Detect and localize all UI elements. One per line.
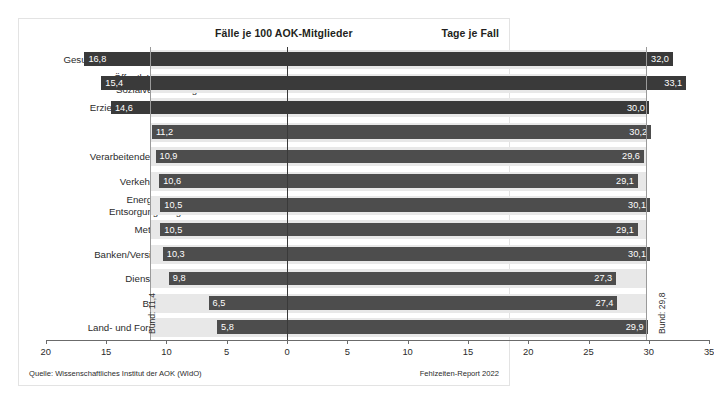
chart-row: Verkehr/Transport10,629,1 xyxy=(19,169,509,193)
bar-value-label: 29,1 xyxy=(616,225,634,235)
axis-tick-label-right: 25 xyxy=(583,346,593,357)
axis-tick-label-right: 30 xyxy=(644,346,654,357)
bar-faelle: 5,8 xyxy=(217,320,287,334)
chart-row: Verarbeitendes Gewerbe10,929,6 xyxy=(19,145,509,169)
chart-row: Land- und Forstwirtschaft5,829,9 xyxy=(19,315,509,339)
axis-line xyxy=(46,340,709,341)
bund-left-label: Bund: 11,4 xyxy=(147,293,157,334)
chart-row: Metallindustrie10,529,1 xyxy=(19,218,509,242)
bar-value-label: 11,2 xyxy=(156,127,173,137)
source-note: Quelle: Wissenschaftliches Institut der … xyxy=(29,369,202,378)
bar-faelle: 11,2 xyxy=(152,125,287,139)
bar-value-label: 30,1 xyxy=(628,249,646,259)
bar-value-label: 10,9 xyxy=(160,151,178,161)
axis-tick xyxy=(589,340,590,344)
bund-right-label: Bund: 29,8 xyxy=(657,292,667,334)
bar-tage-je-fall: 29,6 xyxy=(287,150,644,164)
bar-tage-je-fall: 27,3 xyxy=(287,272,616,286)
bar-value-label: 30,2 xyxy=(629,127,647,137)
bar-value-label: 27,4 xyxy=(596,298,614,308)
axis-tick xyxy=(528,340,529,344)
bar-value-label: 27,3 xyxy=(594,273,612,283)
axis-tick xyxy=(347,340,348,344)
bar-faelle: 16,8 xyxy=(84,52,287,66)
bar-tage-je-fall: 33,1 xyxy=(287,76,686,90)
bar-tage-je-fall: 29,1 xyxy=(287,223,638,237)
bar-value-label: 14,6 xyxy=(115,103,133,113)
axis-tick xyxy=(46,340,47,344)
bar-faelle: 15,4 xyxy=(101,76,287,90)
bar-value-label: 30,0 xyxy=(627,103,645,113)
bar-value-label: 15,4 xyxy=(105,78,123,88)
bar-faelle: 9,8 xyxy=(169,272,287,286)
axis-tick xyxy=(287,340,288,344)
bar-value-label: 30,1 xyxy=(628,200,646,210)
axis-tick-label-right: 10 xyxy=(402,346,412,357)
chart-frame: Fälle je 100 AOK-Mitglieder Tage je Fall… xyxy=(18,18,510,386)
axis-tick xyxy=(227,340,228,344)
axis-tick-label-right: 35 xyxy=(704,346,714,357)
bar-faelle: 10,3 xyxy=(163,247,287,261)
axis-tick-label-left: 5 xyxy=(224,346,229,357)
axis-tick xyxy=(166,340,167,344)
axis-tick-label-left: 15 xyxy=(101,346,111,357)
bar-tage-je-fall: 30,1 xyxy=(287,198,650,212)
axis-tick xyxy=(468,340,469,344)
right-axis-title: Tage je Fall xyxy=(441,27,499,39)
chart-row: Gesundheits- und Sozialwesen16,832,0 xyxy=(19,47,509,71)
bar-value-label: 16,8 xyxy=(88,54,106,64)
axis-tick-label-left: 0 xyxy=(284,346,289,357)
bar-tage-je-fall: 30,0 xyxy=(287,101,649,115)
chart-row: Handel11,230,2 xyxy=(19,120,509,144)
bar-value-label: 5,8 xyxy=(221,322,234,332)
axis-tick-label-left: 20 xyxy=(41,346,51,357)
chart-row: Öffentl. Verwaltung/Sozialversicherung15… xyxy=(19,71,509,95)
bar-faelle: 10,5 xyxy=(160,198,287,212)
bar-value-label: 29,1 xyxy=(616,176,634,186)
bar-value-label: 10,5 xyxy=(164,200,182,210)
bar-tage-je-fall: 32,0 xyxy=(287,52,673,66)
bar-faelle: 6,5 xyxy=(209,296,287,310)
bar-value-label: 10,5 xyxy=(164,225,182,235)
bar-value-label: 9,8 xyxy=(173,273,186,283)
bar-value-label: 6,5 xyxy=(213,298,226,308)
bar-faelle: 10,5 xyxy=(160,223,287,237)
bar-tage-je-fall: 27,4 xyxy=(287,296,617,310)
bar-value-label: 10,6 xyxy=(163,176,181,186)
report-note: Fehlzeiten-Report 2022 xyxy=(420,369,499,378)
axis-tick-label-right: 5 xyxy=(345,346,350,357)
bar-value-label: 10,3 xyxy=(167,249,185,259)
bar-faelle: 10,9 xyxy=(156,150,287,164)
bar-tage-je-fall: 29,1 xyxy=(287,174,638,188)
axis: 201510505101520253035 xyxy=(19,340,509,366)
bar-value-label: 32,0 xyxy=(651,54,669,64)
bar-value-label: 29,9 xyxy=(626,322,644,332)
chart-row: Energie/Wasser/Entsorgung/Bergbau10,530,… xyxy=(19,193,509,217)
chart-row: Banken/Versicherungen10,330,1 xyxy=(19,242,509,266)
axis-tick-label-left: 10 xyxy=(161,346,171,357)
bund-right-reference-line xyxy=(646,47,647,340)
bar-tage-je-fall: 29,9 xyxy=(287,320,648,334)
chart-row: Dienstleistungen9,827,3 xyxy=(19,267,509,291)
zero-axis-line xyxy=(287,47,288,340)
axis-tick-label-right: 15 xyxy=(463,346,473,357)
bar-value-label: 29,6 xyxy=(622,151,640,161)
bar-tage-je-fall: 30,2 xyxy=(287,125,651,139)
bar-faelle: 14,6 xyxy=(111,101,287,115)
axis-tick xyxy=(709,340,710,344)
bar-faelle: 10,6 xyxy=(159,174,287,188)
chart-row: Erziehung und Unterricht14,630,0 xyxy=(19,96,509,120)
plot-area: Gesundheits- und Sozialwesen16,832,0Öffe… xyxy=(19,47,509,347)
left-axis-title: Fälle je 100 AOK-Mitglieder xyxy=(215,27,353,39)
axis-tick xyxy=(408,340,409,344)
axis-tick-label-right: 20 xyxy=(523,346,533,357)
axis-tick xyxy=(106,340,107,344)
chart-row: Baugewerbe6,527,4 xyxy=(19,291,509,315)
axis-tick xyxy=(649,340,650,344)
bar-value-label: 33,1 xyxy=(664,78,682,88)
bar-tage-je-fall: 30,1 xyxy=(287,247,650,261)
